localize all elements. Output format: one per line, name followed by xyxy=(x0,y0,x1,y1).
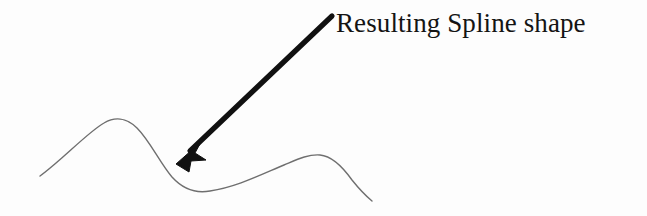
annotation-label: Resulting Spline shape xyxy=(336,7,586,39)
spline-figure: Resulting Spline shape xyxy=(0,0,647,216)
